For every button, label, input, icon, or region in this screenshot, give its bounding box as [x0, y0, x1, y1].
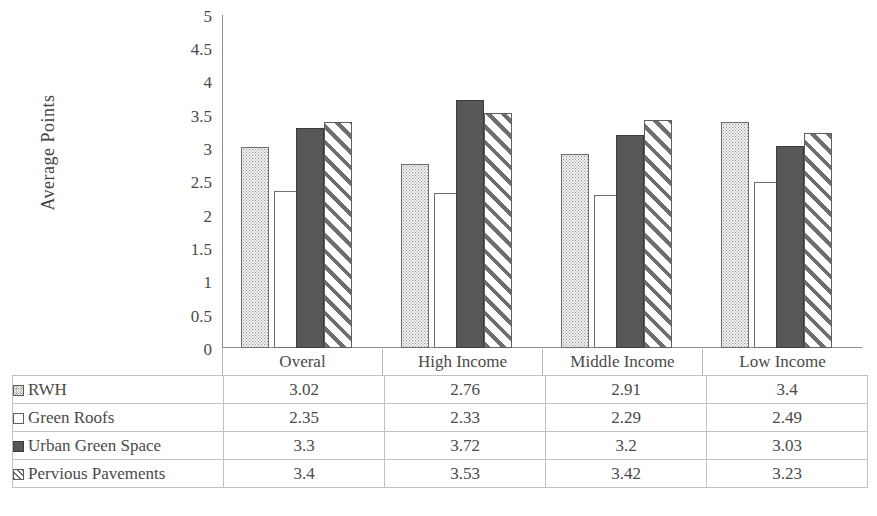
legend-swatch-icon: [13, 441, 24, 452]
bar-group: [222, 15, 382, 348]
bar-group: [382, 15, 542, 348]
legend-row-label: Green Roofs: [13, 404, 224, 432]
bar: [241, 147, 269, 348]
category-label-1: Overal: [222, 349, 382, 375]
bar-group: [542, 15, 702, 348]
series-name: RWH: [28, 380, 67, 399]
bar: [456, 100, 484, 348]
table-cell: 2.76: [385, 376, 546, 404]
legend-swatch-icon: [13, 469, 24, 480]
table-cell: 2.33: [385, 404, 546, 432]
table-row: Green Roofs2.352.332.292.49: [13, 404, 868, 432]
legend-row-label: RWH: [13, 376, 224, 404]
bar: [721, 122, 749, 348]
category-axis: OveralHigh IncomeMiddle IncomeLow Income: [222, 349, 862, 376]
table-row: Pervious Pavements3.43.533.423.23: [13, 460, 868, 488]
legend-swatch-icon: [13, 385, 24, 396]
plot-area: [222, 15, 862, 348]
y-tick-1_5: 1.5: [166, 241, 212, 258]
bar: [296, 128, 324, 348]
chart-figure: Average Points 5 4.5 4 3.5 3 2.5 2 1.5 1…: [0, 0, 877, 516]
table-cell: 2.91: [546, 376, 707, 404]
series-name: Urban Green Space: [28, 436, 161, 455]
series-name: Pervious Pavements: [28, 464, 165, 483]
bar: [324, 122, 352, 348]
legend-row-label: Pervious Pavements: [13, 460, 224, 488]
table-row: RWH3.022.762.913.4: [13, 376, 868, 404]
y-tick-4_5: 4.5: [166, 41, 212, 58]
table-cell: 2.35: [224, 404, 385, 432]
bar: [616, 135, 644, 348]
legend-row-label: Urban Green Space: [13, 432, 224, 460]
bar-group: [702, 15, 862, 348]
y-tick-1: 1: [166, 274, 212, 291]
y-tick-3: 3: [166, 141, 212, 158]
category-label-4: Low Income: [702, 349, 862, 375]
table-row: Urban Green Space3.33.723.23.03: [13, 432, 868, 460]
table-cell: 3.4: [707, 376, 868, 404]
table-cell: 3.4: [224, 460, 385, 488]
series-name: Green Roofs: [28, 408, 114, 427]
data-table: RWH3.022.762.913.4Green Roofs2.352.332.2…: [12, 375, 868, 488]
y-tick-3_5: 3.5: [166, 108, 212, 125]
table-cell: 2.49: [707, 404, 868, 432]
y-tick-2_5: 2.5: [166, 174, 212, 191]
bar: [776, 146, 804, 348]
table-cell: 3.2: [546, 432, 707, 460]
table-cell: 2.29: [546, 404, 707, 432]
table-cell: 3.53: [385, 460, 546, 488]
table-cell: 3.03: [707, 432, 868, 460]
legend-swatch-icon: [13, 413, 24, 424]
table-cell: 3.72: [385, 432, 546, 460]
bar: [644, 120, 672, 348]
y-tick-4: 4: [166, 74, 212, 91]
table-cell: 3.23: [707, 460, 868, 488]
y-axis-title: Average Points: [38, 53, 59, 253]
table-cell: 3.3: [224, 432, 385, 460]
bar: [561, 154, 589, 348]
y-tick-0_5: 0.5: [166, 308, 212, 325]
table-cell: 3.42: [546, 460, 707, 488]
y-tick-5: 5: [166, 8, 212, 25]
bar: [484, 113, 512, 348]
y-tick-0: 0: [166, 341, 212, 358]
category-label-2: High Income: [382, 349, 542, 375]
table-cell: 3.02: [224, 376, 385, 404]
bar: [401, 164, 429, 348]
category-label-3: Middle Income: [542, 349, 702, 375]
bar: [804, 133, 832, 348]
y-tick-2: 2: [166, 208, 212, 225]
